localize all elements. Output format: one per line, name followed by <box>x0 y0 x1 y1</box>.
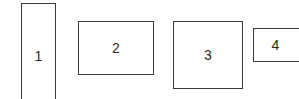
box-4-label: 4 <box>272 37 280 53</box>
box-1-label: 1 <box>35 48 43 64</box>
diagram-canvas: 1 2 3 4 <box>0 0 299 99</box>
faint-bleed-mark <box>60 13 72 43</box>
box-1: 1 <box>21 3 56 99</box>
box-2-label: 2 <box>112 40 120 56</box>
box-3-label: 3 <box>204 47 212 63</box>
box-4: 4 <box>253 28 299 62</box>
box-3: 3 <box>173 21 243 89</box>
box-2: 2 <box>78 21 154 75</box>
